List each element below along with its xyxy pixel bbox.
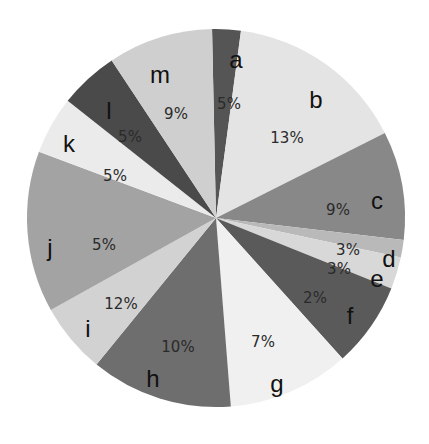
- slice-percent-label: 9%: [326, 201, 350, 219]
- slice-name-label: d: [382, 245, 395, 272]
- slice-percent-label: 5%: [217, 95, 241, 113]
- slice-percent-label: 5%: [118, 128, 142, 146]
- slice-percent-label: 7%: [251, 333, 275, 351]
- slice-name-label: a: [229, 46, 243, 73]
- slice-name-label: k: [63, 130, 76, 157]
- slice-percent-label: 3%: [327, 260, 351, 278]
- slice-name-label: f: [347, 302, 354, 329]
- slice-percent-label: 10%: [161, 338, 194, 356]
- pie-chart: a5%b13%c9%d3%e3%f2%g7%h10%i12%j5%k5%l5%m…: [0, 0, 429, 444]
- slice-name-label: l: [106, 97, 111, 124]
- slice-percent-label: 5%: [92, 236, 116, 254]
- slice-name-label: e: [370, 265, 383, 292]
- slice-name-label: c: [371, 187, 383, 214]
- slice-percent-label: 9%: [164, 105, 188, 123]
- slice-name-label: b: [309, 86, 322, 113]
- slice-name-label: j: [46, 234, 52, 261]
- slice-percent-label: 12%: [104, 295, 137, 313]
- slice-percent-label: 5%: [103, 167, 127, 185]
- slice-percent-label: 2%: [303, 289, 327, 307]
- slice-name-label: m: [150, 61, 170, 88]
- slice-name-label: g: [270, 370, 283, 397]
- slice-percent-label: 3%: [336, 241, 360, 259]
- slice-name-label: i: [85, 315, 90, 342]
- slice-name-label: h: [146, 365, 159, 392]
- slice-percent-label: 13%: [270, 129, 303, 147]
